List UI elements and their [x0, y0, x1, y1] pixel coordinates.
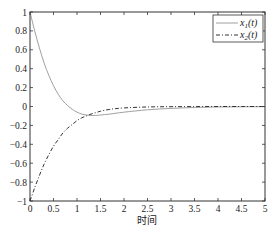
y-tick-label: 0.8 [15, 26, 27, 36]
y-tick-label: 0.6 [15, 45, 27, 55]
x-tick-label: 0.5 [48, 204, 60, 214]
legend: x1(t) x2(t) [213, 15, 263, 42]
x-tick-label: 4.5 [236, 204, 248, 214]
y-tick-label: −0.2 [10, 121, 27, 131]
x-axis-label: 时间 [137, 214, 157, 226]
x-tick-label: 3 [169, 204, 174, 214]
y-tick-label: −0.4 [10, 140, 27, 150]
y-tick-label: −1 [17, 197, 27, 207]
x-tick-label: 1 [75, 204, 80, 214]
x-tick-label: 4 [216, 204, 221, 214]
line-chart: 00.511.522.533.544.5510.80.60.40.20−0.2−… [0, 0, 271, 230]
x-tick-label: 0 [28, 204, 33, 214]
x-tick-label: 2.5 [142, 204, 154, 214]
x-tick-label: 1.5 [95, 204, 107, 214]
y-tick-label: −0.6 [10, 159, 27, 169]
x-tick-label: 3.5 [189, 204, 201, 214]
x-tick-label: 5 [263, 204, 268, 214]
y-tick-label: 0.4 [15, 64, 27, 74]
y-tick-label: −0.8 [10, 178, 27, 188]
x-tick-label: 2 [122, 204, 127, 214]
y-tick-label: 1 [22, 8, 27, 18]
y-tick-label: 0 [22, 102, 27, 112]
series-line-2 [30, 106, 265, 201]
y-tick-label: 0.2 [15, 83, 27, 93]
